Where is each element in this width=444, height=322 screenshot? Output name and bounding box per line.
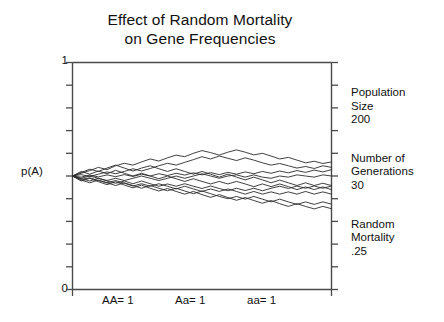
parameter-generations-value: 30 — [351, 179, 443, 193]
parameter-random-mortality-value: .25 — [351, 245, 443, 259]
x-axis-tick-label-aa-dom: AA= 1 — [102, 294, 134, 306]
parameters-panel: Population Size 200 Number of Generation… — [351, 86, 443, 283]
series-line-replicate-7 — [73, 176, 332, 204]
parameter-generations: Number of Generations 30 — [351, 152, 443, 193]
parameter-random-mortality-line-2: Mortality — [351, 231, 443, 245]
parameter-generations-line-1: Number of — [351, 152, 443, 166]
parameter-random-mortality: Random Mortality .25 — [351, 218, 443, 259]
parameter-population-size-line-2: Size — [351, 100, 443, 114]
parameter-population-size-line-1: Population — [351, 86, 443, 100]
parameter-random-mortality-line-1: Random — [351, 218, 443, 232]
x-axis-tick-label-aa-het: Aa= 1 — [175, 294, 205, 306]
parameter-population-size-value: 200 — [351, 113, 443, 127]
parameter-generations-line-2: Generations — [351, 165, 443, 179]
chart-figure: Effect of Random Mortality on Gene Frequ… — [0, 0, 444, 322]
series-line-replicate-8 — [73, 176, 332, 209]
x-axis-tick-label-aa-rec: aa= 1 — [247, 294, 276, 306]
x-axis-tick-labels: AA= 1 Aa= 1 aa= 1 — [72, 294, 332, 310]
parameter-population-size: Population Size 200 — [351, 86, 443, 127]
